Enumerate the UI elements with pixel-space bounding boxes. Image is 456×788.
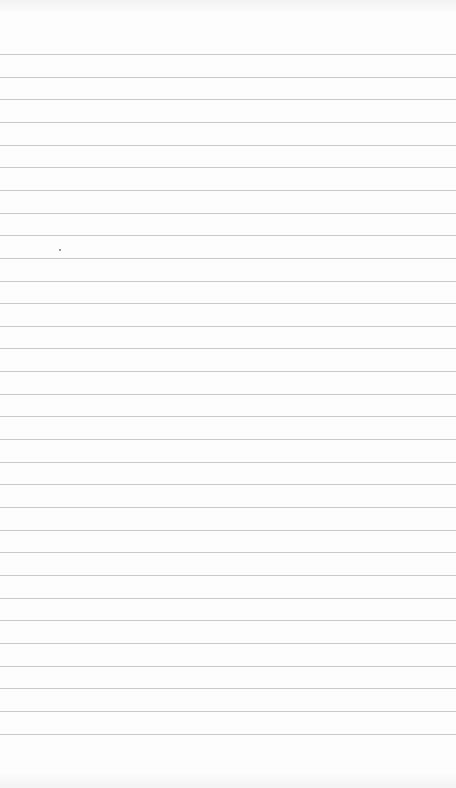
rule-line bbox=[0, 281, 456, 282]
rule-line bbox=[0, 145, 456, 146]
lined-paper-page bbox=[0, 0, 456, 788]
rule-line bbox=[0, 530, 456, 531]
ink-speck bbox=[59, 249, 61, 251]
rule-line bbox=[0, 235, 456, 236]
rule-line bbox=[0, 484, 456, 485]
rule-line bbox=[0, 462, 456, 463]
rule-line bbox=[0, 167, 456, 168]
rule-line bbox=[0, 348, 456, 349]
rule-line bbox=[0, 303, 456, 304]
rule-line bbox=[0, 575, 456, 576]
rule-line bbox=[0, 439, 456, 440]
rule-line bbox=[0, 213, 456, 214]
rule-line bbox=[0, 371, 456, 372]
rule-line bbox=[0, 666, 456, 667]
rule-line bbox=[0, 99, 456, 100]
rule-line bbox=[0, 688, 456, 689]
rule-line bbox=[0, 326, 456, 327]
rule-line bbox=[0, 598, 456, 599]
rule-line bbox=[0, 258, 456, 259]
rule-line bbox=[0, 507, 456, 508]
rule-line bbox=[0, 122, 456, 123]
rule-line bbox=[0, 77, 456, 78]
rule-line bbox=[0, 643, 456, 644]
rule-line bbox=[0, 711, 456, 712]
rule-line bbox=[0, 620, 456, 621]
rule-line bbox=[0, 552, 456, 553]
rule-line bbox=[0, 734, 456, 735]
rule-line bbox=[0, 416, 456, 417]
bottom-edge bbox=[0, 774, 456, 788]
rule-line bbox=[0, 394, 456, 395]
rule-line bbox=[0, 190, 456, 191]
rule-line bbox=[0, 54, 456, 55]
